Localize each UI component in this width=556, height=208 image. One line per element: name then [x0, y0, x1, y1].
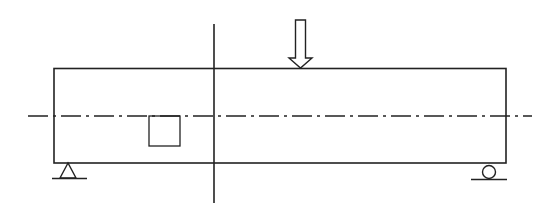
section-square: [149, 116, 180, 146]
beam-diagram: [0, 0, 556, 208]
load-arrow-icon: [289, 20, 312, 68]
pin-support-icon: [52, 163, 87, 179]
roller-support-icon: [471, 166, 507, 180]
